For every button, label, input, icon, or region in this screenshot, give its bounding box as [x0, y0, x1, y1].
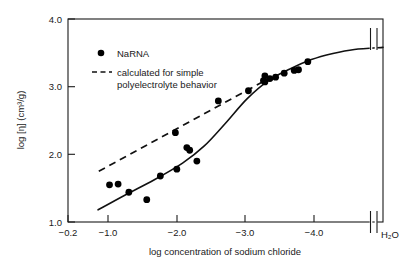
- x-tick-label-4: −3.0: [236, 227, 255, 238]
- x-tick-label-3: −2.0: [168, 227, 187, 238]
- data-point: [281, 70, 288, 77]
- data-point: [106, 181, 113, 188]
- legend-calculated-label-line1: calculated for simple: [117, 67, 204, 78]
- data-point: [304, 58, 311, 65]
- y-tick-label-4: 4.0: [49, 14, 62, 25]
- x-axis-title: log concentration of sodium chloride: [149, 246, 301, 257]
- x-tick-label-2: −1.0: [99, 227, 118, 238]
- chart-legend: NaRNA calculated for simple polyelectrol…: [92, 48, 217, 90]
- y-axis-title: log [η] (cm³/g): [15, 91, 26, 150]
- data-point: [173, 166, 180, 173]
- y-axis-ticks: [68, 19, 75, 222]
- data-point: [157, 173, 164, 180]
- y-tick-label-3: 3.0: [49, 81, 62, 92]
- chart-svg: 4.0 3.0 2.0 1.0 −0.2 −1.0 −2.0 −3.0 −4.0: [0, 0, 411, 264]
- data-point: [215, 97, 222, 104]
- data-point: [245, 87, 252, 94]
- data-point: [295, 66, 302, 73]
- axis-break-top: [371, 28, 378, 50]
- calculated-polyelectrolyte-line: [99, 78, 270, 171]
- data-point: [115, 181, 122, 188]
- data-point: [266, 75, 273, 82]
- data-point: [193, 158, 200, 165]
- data-point: [125, 189, 132, 196]
- legend-calculated-label-line2: polyelectrolyte behavior: [117, 79, 217, 90]
- water-axis-label: H₂O: [381, 229, 399, 240]
- data-point: [272, 74, 279, 81]
- plot-frame: [68, 19, 383, 222]
- data-point: [172, 129, 179, 136]
- data-point: [143, 196, 150, 203]
- chart-figure: 4.0 3.0 2.0 1.0 −0.2 −1.0 −2.0 −3.0 −4.0: [0, 0, 411, 264]
- x-tick-label-1: −0.2: [59, 227, 78, 238]
- y-tick-label-1: 1.0: [49, 217, 62, 228]
- calculated-line-path: [99, 78, 270, 171]
- x-tick-label-5: −4.0: [305, 227, 324, 238]
- x-axis-ticks: [68, 215, 314, 222]
- data-point: [183, 144, 190, 151]
- legend-narna-marker-icon: [98, 50, 105, 57]
- legend-narna-label: NaRNA: [117, 48, 150, 59]
- y-tick-label-2: 2.0: [49, 149, 62, 160]
